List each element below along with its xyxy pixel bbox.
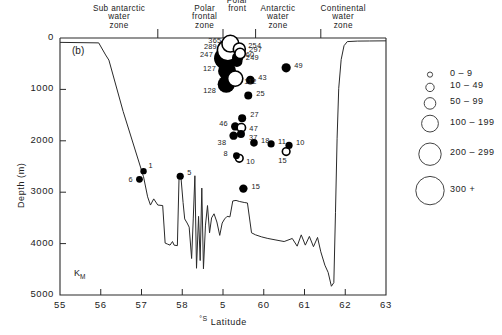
x-axis-tick-label: 60: [252, 300, 276, 310]
y-axis-tick-label: 3000: [2, 186, 54, 196]
data-point: [285, 142, 292, 149]
x-axis-tick-label: 58: [170, 300, 194, 310]
data-point: [140, 168, 146, 174]
figure-panel: Sub antarctic water zone Polar frontal z…: [0, 0, 502, 335]
data-points: [136, 35, 293, 193]
data-point: [136, 176, 143, 183]
legend-item-label: 50 – 99: [450, 97, 484, 106]
data-point: [235, 48, 245, 58]
data-point-value-label: 47: [249, 125, 258, 133]
x-axis-tick-label: 62: [333, 300, 357, 310]
data-point: [229, 131, 237, 139]
data-point-value-label: 10: [246, 158, 255, 166]
legend-symbol: [422, 115, 439, 132]
data-point: [282, 63, 291, 72]
data-point-value-label: 6: [128, 176, 132, 184]
data-point-value-label: 46: [219, 120, 228, 128]
x-axis-tick-label: 5: [211, 300, 235, 310]
data-point: [177, 173, 184, 180]
data-point-value-label: 127: [203, 65, 216, 73]
x-axis-tick-label: 63: [374, 300, 398, 310]
data-point-value-label: 112: [244, 78, 256, 86]
data-point: [244, 92, 252, 100]
x-axis-tick-label: 55: [48, 300, 72, 310]
y-axis-tick-label: 5000: [2, 289, 54, 299]
y-axis-tick-label: 0: [2, 32, 54, 42]
zone-divider-ticks: [158, 29, 321, 38]
x-axis-tick-label: 61: [293, 300, 317, 310]
data-point-value-label: 10: [296, 139, 305, 147]
data-point: [233, 152, 240, 159]
legend-symbol: [416, 176, 444, 204]
data-point-value-label: 37: [249, 134, 258, 142]
data-point-value-label: 247: [200, 51, 213, 59]
y-axis-tick-label: 1000: [2, 83, 54, 93]
legend-item-label: 100 – 199: [450, 118, 495, 127]
legend-symbols: [416, 72, 444, 205]
legend-item-label: 10 – 49: [450, 81, 484, 90]
legend-symbol: [426, 83, 434, 91]
data-point-value-label: 38: [218, 139, 227, 147]
x-axis-tick-label: 56: [89, 300, 113, 310]
legend-symbol: [427, 72, 432, 77]
data-point: [238, 114, 246, 122]
data-point-value-label: 11: [278, 138, 286, 146]
data-point-value-label: 128: [203, 87, 216, 95]
legend-item-label: 0 – 9: [450, 69, 473, 78]
legend-item-label: 200 – 299: [450, 148, 495, 157]
data-point-value-label: 8: [223, 150, 227, 158]
data-point-value-label: 43: [258, 74, 267, 82]
data-point: [237, 130, 245, 138]
data-point-value-label: 49: [294, 62, 303, 70]
data-point-value-label: 15: [278, 157, 287, 165]
data-point-value-label: 5: [187, 169, 191, 177]
data-point-value-label: 249: [246, 54, 259, 62]
legend-symbol: [424, 98, 436, 110]
data-point-value-label: 27: [250, 111, 259, 119]
x-axis-tick-label: 57: [130, 300, 154, 310]
data-point: [228, 71, 243, 86]
data-point-value-label: 1: [149, 162, 153, 170]
y-axis-tick-label: 2000: [2, 135, 54, 145]
data-point-value-label: 25: [256, 90, 265, 98]
legend-item-label: 300 +: [450, 185, 475, 194]
data-point-value-label: 18: [261, 137, 270, 145]
y-axis-tick-label: 4000: [2, 238, 54, 248]
data-point-value-label: 15: [251, 183, 260, 191]
legend-symbol: [419, 143, 441, 165]
data-point: [239, 184, 247, 192]
